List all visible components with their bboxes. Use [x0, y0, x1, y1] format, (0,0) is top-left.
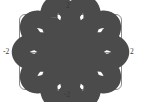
- rose-curve-path: [20, 4, 120, 100]
- axis-tick-label-left: -2: [3, 48, 9, 56]
- rose-curve: [19, 14, 122, 90]
- axis-tick-label-bottom: -2: [64, 91, 70, 99]
- axis-tick-label-right: 2: [130, 48, 134, 56]
- polar-rose-figure: 2 -2 -2 2: [0, 0, 141, 102]
- axis-tick-label-top: 2: [66, 2, 70, 10]
